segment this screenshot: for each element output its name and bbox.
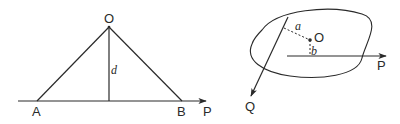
right-figure: O a b P Q bbox=[245, 9, 386, 114]
point-o-dot bbox=[308, 38, 312, 42]
label-a: A bbox=[32, 104, 41, 119]
label-q: Q bbox=[245, 99, 255, 114]
diagram-canvas: O A B P d O a b P Q bbox=[0, 0, 400, 124]
left-figure: O A B P d bbox=[18, 11, 212, 119]
point-o-dot bbox=[108, 26, 111, 29]
label-a: a bbox=[295, 19, 301, 33]
label-b: B bbox=[177, 104, 186, 119]
label-p: P bbox=[203, 104, 212, 119]
label-b: b bbox=[311, 44, 317, 58]
label-o: O bbox=[314, 30, 324, 45]
label-d: d bbox=[111, 63, 118, 77]
label-p: P bbox=[377, 58, 386, 73]
force-q-arrow bbox=[251, 17, 288, 96]
side-ob bbox=[109, 27, 182, 101]
side-oa bbox=[37, 27, 109, 101]
label-o: O bbox=[104, 11, 114, 26]
